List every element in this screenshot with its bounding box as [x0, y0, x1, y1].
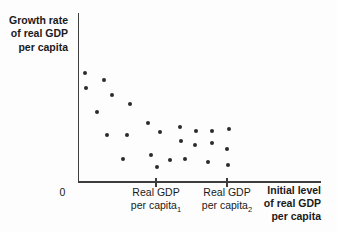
- data-point: [125, 133, 129, 137]
- data-point: [179, 139, 183, 143]
- data-point: [146, 121, 150, 125]
- data-point: [128, 102, 132, 106]
- subscript-1: 1: [177, 205, 181, 214]
- data-point: [183, 157, 187, 161]
- data-point: [210, 129, 214, 133]
- data-point: [178, 125, 182, 129]
- x-axis-title: Initial level of real GDP per capita: [264, 184, 321, 224]
- x-tick-label-2: Real GDP per capita2: [202, 186, 252, 213]
- scatter-chart-figure: Growth rate of real GDP per capita 0 Rea…: [0, 0, 337, 232]
- data-point: [149, 153, 153, 157]
- data-point: [193, 143, 197, 147]
- x-axis-title-line: per capita: [264, 210, 321, 223]
- data-point: [95, 110, 99, 114]
- x-axis-title-line: Initial level: [264, 184, 321, 197]
- x-axis-title-line: of real GDP: [264, 197, 321, 210]
- data-point: [225, 147, 229, 151]
- data-point: [110, 93, 114, 97]
- data-point: [155, 165, 159, 169]
- x-tick-label-2-line1: Real GDP: [202, 186, 252, 200]
- origin-label: 0: [56, 186, 69, 198]
- x-tick-label-2-line2: per capita2: [202, 199, 252, 213]
- x-tick-label-1-line2: per capita1: [131, 199, 181, 213]
- data-point: [102, 78, 106, 82]
- data-point: [227, 127, 231, 131]
- data-point: [121, 157, 125, 161]
- data-point: [168, 158, 172, 162]
- data-point: [226, 163, 230, 167]
- x-tick-label-1: Real GDP per capita1: [131, 186, 181, 213]
- data-point: [83, 71, 87, 75]
- data-point: [84, 86, 88, 90]
- data-point: [194, 129, 198, 133]
- data-point: [105, 133, 109, 137]
- subscript-2: 2: [248, 205, 252, 214]
- data-point: [158, 130, 162, 134]
- data-point: [206, 160, 210, 164]
- data-point: [210, 141, 214, 145]
- x-tick-label-1-line1: Real GDP: [131, 186, 181, 200]
